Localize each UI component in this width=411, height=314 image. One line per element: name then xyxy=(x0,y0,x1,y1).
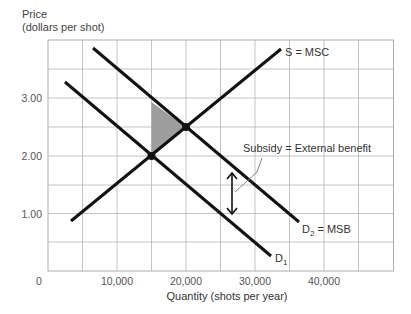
chart-plot: S = MSC Subsidy = External benefit D2 = … xyxy=(0,0,411,314)
supply-curve xyxy=(71,49,281,221)
equilibrium-point-efficient xyxy=(182,123,190,131)
x-axis-label: Quantity (shots per year) xyxy=(166,290,287,302)
demand-curve-d1 xyxy=(65,82,271,256)
d1-label: D1 xyxy=(275,252,288,267)
subsidy-label: Subsidy = External benefit xyxy=(243,142,371,154)
x-tick-2: 20,000 xyxy=(170,275,202,287)
demand-curve-d2 xyxy=(93,48,299,222)
d2-label: D2 = MSB xyxy=(302,223,351,238)
supply-label: S = MSC xyxy=(285,46,329,58)
y-tick-2: 2.00 xyxy=(22,150,43,162)
y-tick-3: 3.00 xyxy=(22,92,43,104)
y-tick-1: 1.00 xyxy=(22,208,43,220)
subsidy-double-arrow-icon xyxy=(227,173,237,214)
x-tick-4: 40,000 xyxy=(308,275,340,287)
x-tick-3: 30,000 xyxy=(239,275,271,287)
equilibrium-point-market xyxy=(148,152,156,160)
x-tick-0: 0 xyxy=(36,275,42,287)
x-tick-1: 10,000 xyxy=(101,275,133,287)
